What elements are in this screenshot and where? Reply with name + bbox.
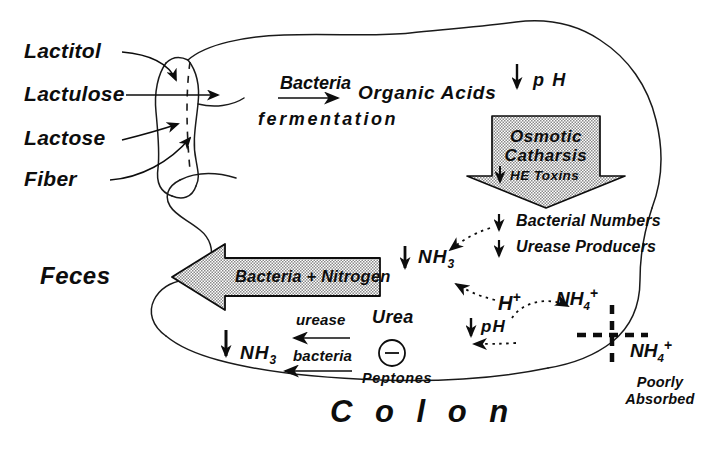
nh3-label-upper: NH3 (418, 247, 455, 270)
nh3-upper-sub: 3 (447, 257, 455, 271)
substrate-label-lactitol: Lactitol (24, 40, 101, 61)
organic-acids-label: Organic Acids (358, 83, 497, 102)
substrate-label-lactulose: Lactulose (24, 83, 125, 104)
inhibition-node (379, 340, 405, 366)
ammonium-inner-text: NH (556, 288, 583, 309)
osmotic-line1-label: Osmotic (496, 128, 596, 146)
ammonium-outer-sub: 4 (657, 352, 663, 364)
ammonium-outer-sup: + (664, 337, 672, 353)
nh3-upper-text: NH (418, 246, 447, 267)
proton-label: H+ (498, 290, 521, 313)
proton-text: H (498, 292, 512, 314)
ammonium-inner-sub: 4 (583, 300, 589, 312)
substrate-label-fiber: Fiber (24, 168, 77, 189)
substrate-label-lactose: Lactose (24, 127, 105, 148)
ileocecal-dashed-line (187, 62, 190, 170)
ammonium-outer-text: NH (630, 340, 657, 361)
fermentation-agent-label: Bacteria (280, 74, 351, 92)
nh3-lower-sub: 3 (269, 353, 277, 367)
urease-label: urease (296, 312, 346, 327)
poorly-absorbed-line2: Absorbed (612, 391, 708, 408)
bacteria-nitrogen-label: Bacteria + Nitrogen (235, 268, 391, 285)
bacterial-numbers-label: Bacterial Numbers (516, 213, 661, 229)
urea-label: Urea (372, 308, 414, 326)
bacteria-label: bacteria (293, 348, 352, 363)
osmotic-line2-label: Catharsis (496, 147, 596, 165)
urease-producers-label: Urease Producers (516, 239, 656, 255)
ph-label-lower: pH (481, 318, 506, 335)
peptones-label: Peptones (362, 371, 432, 386)
ammonium-outer-label: NH4+ (630, 338, 672, 365)
ammonium-inner-sup: + (590, 285, 598, 301)
ammonium-inner-label: NH4+ (556, 286, 598, 313)
ph-label-top: p H (533, 71, 567, 89)
proton-sup: + (512, 289, 520, 305)
nh3-label-lower: NH3 (240, 343, 277, 366)
poorly-absorbed-line1: Poorly (612, 374, 708, 391)
nh3-lower-text: NH (240, 342, 269, 363)
fermentation-process-label: fermentation (258, 110, 398, 128)
he-toxins-label: HE Toxins (510, 169, 579, 183)
substrate-leader-lines (110, 52, 218, 180)
colon-title-label: C o l o n (330, 396, 515, 427)
feces-label: Feces (40, 264, 111, 288)
diagram-canvas: Lactitol Lactulose Lactose Fiber Bacteri… (0, 0, 722, 450)
